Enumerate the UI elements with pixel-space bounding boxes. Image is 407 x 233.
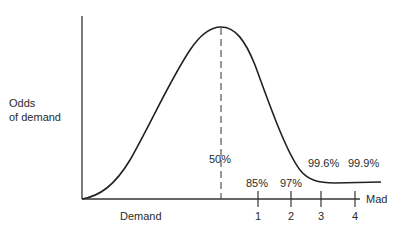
percent-label-3: 99.6%: [308, 157, 339, 170]
mad-axis-label: Mad: [366, 193, 387, 206]
percent-label-2: 97%: [280, 177, 302, 190]
y-axis-label-line1: Odds: [9, 96, 61, 110]
tick-label-4: 4: [352, 210, 358, 223]
distribution-curve: [82, 27, 381, 199]
tick-label-3: 3: [318, 210, 324, 223]
percent-label-1: 85%: [246, 177, 268, 190]
tick-label-2: 2: [288, 210, 294, 223]
y-axis-label-line2: of demand: [9, 110, 61, 124]
y-axis-label: Odds of demand: [9, 96, 61, 124]
mean-percent-label: 50%: [209, 153, 231, 166]
tick-label-1: 1: [255, 210, 261, 223]
x-axis-label: Demand: [120, 210, 162, 223]
demand-distribution-diagram: [0, 0, 407, 233]
percent-label-4: 99.9%: [348, 157, 379, 170]
